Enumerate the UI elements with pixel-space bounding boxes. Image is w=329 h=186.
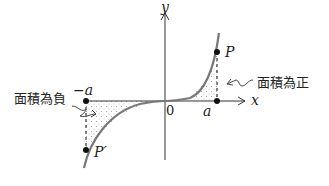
point-label-P: P [224, 44, 235, 60]
point-P [214, 49, 220, 55]
tick-label-a: a [203, 103, 211, 119]
x-axis-label: x [251, 92, 259, 108]
origin-label: 0 [166, 103, 174, 118]
positive-area-squiggle-arrow-icon [227, 79, 253, 86]
point-a [214, 98, 220, 104]
positive-area-annotation: 面積為正 [257, 75, 309, 90]
point-P-prime [83, 147, 89, 153]
point-label-P-prime: P′ [93, 144, 107, 160]
tick-label-neg-a: −a [73, 82, 93, 98]
point-neg-a [83, 98, 89, 104]
odd-function-area-diagram: y x 0 a −a P P′ 面積為正 面積為負 [0, 0, 329, 186]
negative-area-annotation: 面積為負 [14, 91, 66, 106]
negative-area-shading [86, 101, 165, 150]
y-axis-label: y [160, 0, 170, 15]
